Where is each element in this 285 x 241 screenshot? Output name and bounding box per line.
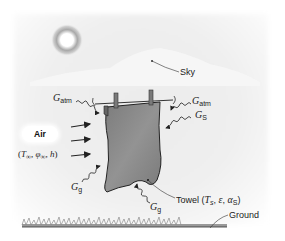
g-atm-left-label: Gatm (53, 93, 72, 103)
air-parameters-label: (T∞, φ∞, h) (18, 150, 58, 159)
g-s-wave-arrow (166, 117, 191, 129)
towel-label: Towel (Ts, ε, αS) (176, 195, 240, 205)
towel-drying-diagram: Sky Gatm Gatm GS Air (T∞, φ∞, h) Gg Towe… (0, 0, 285, 241)
clothespin-left (114, 93, 118, 108)
air-label: Air (22, 126, 58, 142)
sky-label: Sky (180, 68, 195, 77)
air-flow-arrow-3 (71, 154, 90, 156)
g-g-left-wave-arrow (82, 166, 100, 182)
clothesline (95, 100, 173, 104)
sun-icon (51, 24, 83, 56)
grass-ground (22, 217, 227, 227)
g-g-bottom-wave-arrow (137, 184, 150, 203)
air-flow-arrow-1 (71, 124, 90, 127)
towel-shape (105, 102, 161, 192)
g-atm-right-wave-arrow (171, 103, 191, 111)
clothespin-right (149, 90, 153, 105)
air-flow-arrow-2 (71, 139, 90, 141)
g-s-label: GS (195, 110, 207, 120)
g-atm-left-wave-arrow (76, 101, 99, 114)
g-g-bottom-label: Gg (150, 202, 161, 212)
g-atm-right-label: Gatm (192, 96, 211, 106)
g-g-left-label: Gg (71, 182, 82, 192)
ground-label: Ground (229, 211, 259, 220)
diagram-graphics (0, 0, 285, 241)
